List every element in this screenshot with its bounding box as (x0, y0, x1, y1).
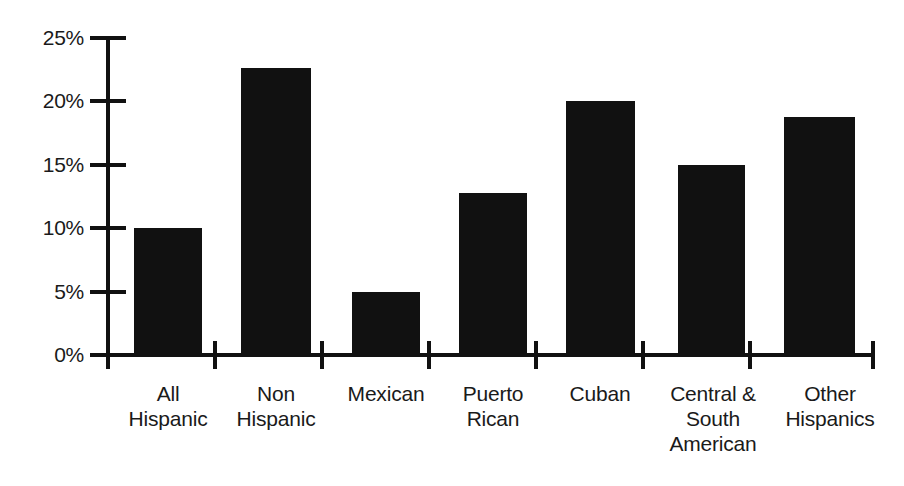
bar-non-hispanic (241, 68, 311, 355)
x-axis-category-label-non-hispanic: Non Hispanic (224, 381, 328, 431)
x-axis-tick (748, 341, 752, 369)
y-axis-label-0: 0% (0, 344, 84, 365)
x-axis-tick (641, 341, 645, 369)
x-axis-tick (320, 341, 324, 369)
y-axis-label-20: 20% (0, 90, 84, 111)
bar-all-hispanic (134, 228, 202, 355)
y-axis-tick (90, 163, 126, 167)
x-axis-category-label-cuban: Cuban (548, 381, 652, 406)
y-axis-line (106, 36, 110, 358)
y-axis-label-10: 10% (0, 217, 84, 238)
x-axis-tick (427, 341, 431, 369)
x-axis-tick (871, 341, 875, 369)
y-axis-label-5: 5% (0, 281, 84, 302)
y-axis-tick (90, 99, 126, 103)
plot-area: 25% 20% 15% 10% 5% 0% (0, 0, 904, 486)
bar-cuban (566, 101, 635, 355)
x-axis-category-label-central-south-american: Central & South American (652, 381, 774, 456)
x-axis-tick (213, 341, 217, 369)
bar-central-south-american (678, 165, 745, 355)
bar-chart: 25% 20% 15% 10% 5% 0% (0, 0, 904, 486)
x-axis-category-label-mexican: Mexican (331, 381, 441, 406)
y-axis-tick (90, 36, 126, 40)
x-axis-category-label-all-hispanic: All Hispanic (116, 381, 220, 431)
bar-mexican (352, 292, 420, 355)
x-axis-tick (106, 341, 110, 369)
bar-other-hispanics (784, 117, 855, 355)
bar-puerto-rican (459, 193, 527, 355)
y-axis-label-25: 25% (0, 27, 84, 48)
x-axis-tick (534, 341, 538, 369)
y-axis-tick (90, 226, 126, 230)
x-axis-category-label-other-hispanics: Other Hispanics (767, 381, 893, 431)
y-axis-label-15: 15% (0, 154, 84, 175)
y-axis-tick (90, 290, 126, 294)
x-axis-category-label-puerto-rican: Puerto Rican (441, 381, 545, 431)
